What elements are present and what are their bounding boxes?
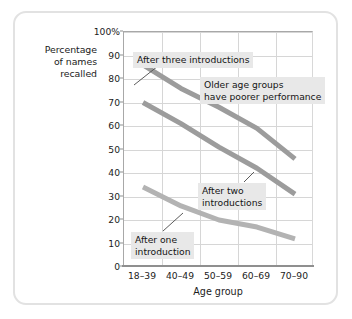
x-axis-tick-label: 60–69: [242, 270, 270, 281]
annotation-older-age-groups: Older age groups have poorer performance: [200, 77, 325, 104]
annotation-after-two-line2: introductions: [202, 197, 262, 209]
y-axis-tick-label: 100%: [86, 26, 120, 37]
y-axis-tick-label: 30: [86, 190, 120, 201]
x-axis-tick-label: 40–49: [166, 270, 194, 281]
annotation-after-two-line1: After two: [202, 185, 262, 197]
y-axis-tick-label: 40: [86, 167, 120, 178]
annotation-after-one-introduction: After one introduction: [131, 232, 194, 259]
annotation-after-three-text: After three introductions: [137, 54, 249, 65]
x-axis-line: [122, 265, 314, 267]
y-axis-tick-label: 0: [86, 261, 120, 272]
y-axis-tick-label: 20: [86, 214, 120, 225]
y-axis-tick-label: 80: [86, 73, 120, 84]
y-axis-tick-label: 60: [86, 120, 120, 131]
x-axis-tick-label: 50–59: [204, 270, 232, 281]
annotation-after-two-introductions: After two introductions: [198, 183, 266, 210]
y-axis-tick-label: 90: [86, 49, 120, 60]
annotation-after-one-line2: introduction: [135, 246, 190, 258]
annotation-older-line1: Older age groups: [204, 79, 321, 91]
annotation-older-line2: have poorer performance: [204, 91, 321, 103]
annotation-after-three-introductions: After three introductions: [133, 52, 253, 68]
x-axis-tick-label: 18–39: [128, 270, 156, 281]
y-axis-tick-label: 50: [86, 143, 120, 154]
annotation-after-one-line1: After one: [135, 234, 190, 246]
series-line-2: [143, 103, 295, 195]
y-axis-tick-label: 70: [86, 96, 120, 107]
x-axis-title: Age group: [123, 286, 313, 297]
y-axis-tick-label: 10: [86, 237, 120, 248]
y-axis-tick-labels: 0102030405060708090100%: [84, 31, 120, 266]
x-axis-tick-label: 70–90: [280, 270, 308, 281]
